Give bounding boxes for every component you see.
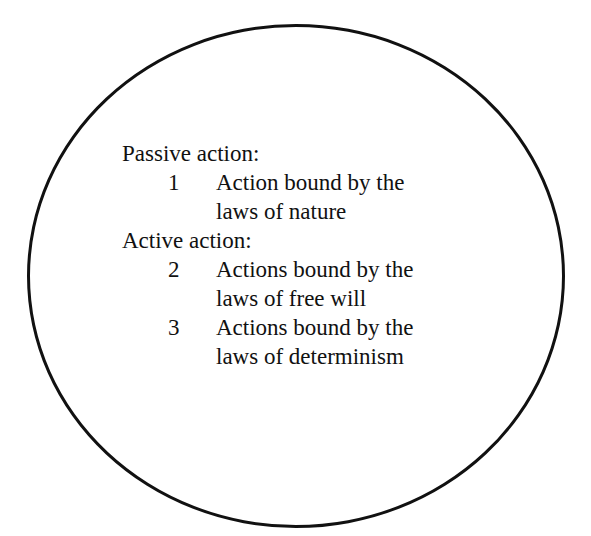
item-text-line: Action bound by the [216, 170, 404, 195]
action-classification: Passive action: 1 Action bound by the la… [122, 139, 413, 371]
item-number: 1 [122, 168, 216, 197]
list-item: 3 Actions bound by the laws of determini… [122, 313, 413, 371]
item-text-line: laws of determinism [216, 344, 404, 369]
item-text-line: Actions bound by the [216, 315, 413, 340]
item-text-line: Actions bound by the [216, 257, 413, 282]
active-action-heading: Active action: [122, 226, 413, 255]
list-item: 2 Actions bound by the laws of free will [122, 255, 413, 313]
item-text-line: laws of free will [216, 286, 366, 311]
item-text-line: laws of nature [216, 199, 346, 224]
item-text: Action bound by the laws of nature [216, 168, 404, 226]
list-item: 1 Action bound by the laws of nature [122, 168, 413, 226]
item-text: Actions bound by the laws of determinism [216, 313, 413, 371]
passive-action-heading: Passive action: [122, 139, 413, 168]
item-number: 2 [122, 255, 216, 284]
item-text: Actions bound by the laws of free will [216, 255, 413, 313]
item-number: 3 [122, 313, 216, 342]
